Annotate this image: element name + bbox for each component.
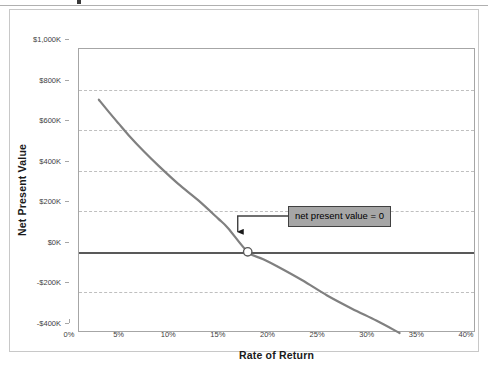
y-axis-tick-label: -$200K	[10, 278, 61, 287]
y-axis-tick-mark	[65, 161, 69, 162]
y-axis-tick-mark	[65, 323, 69, 324]
y-axis-tick-label: -$400K	[10, 319, 61, 328]
plot-area	[78, 48, 475, 332]
y-axis-tick-label: $600K	[10, 116, 61, 125]
x-axis-tick-mark	[69, 319, 70, 323]
y-axis-tick-mark	[65, 80, 69, 81]
y-axis-tick-label: $400K	[10, 156, 61, 165]
y-axis-tick-mark	[65, 39, 69, 40]
chart-frame: Net Present Value Rate of Return $1,000K…	[9, 9, 479, 352]
y-axis-tick-label: $200K	[10, 197, 61, 206]
y-axis-tick-mark	[65, 282, 69, 283]
y-axis-tick-mark	[65, 242, 69, 243]
y-axis-tick-label: $800K	[10, 75, 61, 84]
irr-point-marker	[244, 248, 252, 256]
top-strip-marker	[77, 0, 81, 4]
chart-screenshot: Net Present Value Rate of Return $1,000K…	[0, 0, 488, 372]
top-cutoff-strip	[0, 0, 488, 6]
x-axis-title: Rate of Return	[78, 349, 475, 361]
y-axis-tick-label: $1,000K	[10, 35, 61, 44]
y-axis-tick-mark	[65, 120, 69, 121]
y-axis-tick-label: $0K	[10, 237, 61, 246]
npv-zero-callout-label: net present value = 0	[288, 206, 391, 227]
x-axis-tick-label: 0%	[64, 330, 75, 339]
npv-curve-svg	[79, 49, 476, 333]
y-axis-tick-mark	[65, 201, 69, 202]
